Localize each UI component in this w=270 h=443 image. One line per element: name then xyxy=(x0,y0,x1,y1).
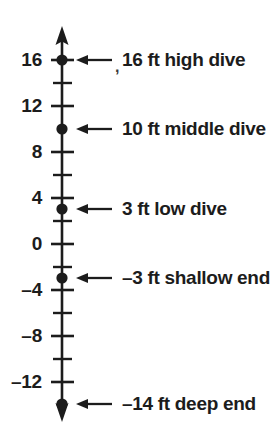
callout-label-high-dive: 16 ft high dive xyxy=(122,49,245,71)
tick-label-4: 4 xyxy=(32,187,42,209)
tick-label-8: 8 xyxy=(32,141,42,163)
point-neg3 xyxy=(56,272,67,283)
callout-label-shallow-end: –3 ft shallow end xyxy=(122,267,270,289)
point-neg14 xyxy=(56,398,67,409)
point-10 xyxy=(56,123,67,134)
callout-label-deep-end: –14 ft deep end xyxy=(122,393,256,415)
tick-label-16: 16 xyxy=(21,49,42,71)
tick-label-neg12: –12 xyxy=(11,371,42,393)
arrow-head-neg3 xyxy=(76,273,88,283)
arrow-head-neg14 xyxy=(76,399,88,409)
point-3 xyxy=(56,203,67,214)
callout-label-low-dive: 3 ft low dive xyxy=(122,198,227,220)
callout-label-middle-dive: 10 ft middle dive xyxy=(122,118,266,140)
arrow-head-3 xyxy=(76,204,88,214)
tick-label-0: 0 xyxy=(32,233,42,255)
arrow-head-16 xyxy=(76,55,88,65)
point-16 xyxy=(56,54,67,65)
number-line-diagram: 16 12 8 4 0 –4 –8 –12 , 16 ft high dive … xyxy=(0,0,270,443)
stray-comma-mark: , xyxy=(115,58,119,76)
arrow-head-10 xyxy=(76,124,88,134)
tick-label-neg4: –4 xyxy=(21,279,42,301)
callout-arrows xyxy=(76,55,112,409)
tick-label-12: 12 xyxy=(21,95,42,117)
tick-label-neg8: –8 xyxy=(21,325,42,347)
